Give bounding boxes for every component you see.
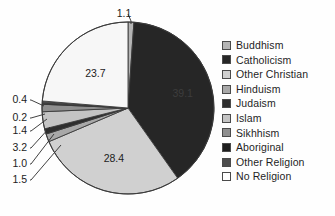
slice-value-label: 0.2 — [12, 111, 27, 123]
legend-swatch-icon — [222, 85, 231, 94]
legend-item[interactable]: No Religion — [222, 169, 308, 184]
chart-legend: BuddhismCatholicismOther ChristianHindui… — [222, 38, 308, 184]
legend-item[interactable]: Aboriginal — [222, 140, 308, 155]
legend-swatch-icon — [222, 128, 231, 137]
slice-value-label: 23.7 — [85, 67, 106, 79]
slice-value-label: 0.4 — [12, 93, 27, 105]
leader-line — [30, 134, 54, 164]
legend-swatch-icon — [222, 70, 231, 79]
legend-item[interactable]: Catholicism — [222, 53, 308, 68]
legend-item-label: Catholicism — [236, 55, 291, 66]
legend-item-label: Sikhhism — [236, 128, 279, 139]
legend-swatch-icon — [222, 158, 231, 167]
legend-item[interactable]: Sikhhism — [222, 126, 308, 141]
legend-swatch-icon — [222, 143, 231, 152]
legend-item[interactable]: Other Religion — [222, 155, 308, 170]
legend-item-label: Hinduism — [236, 84, 281, 95]
legend-swatch-icon — [222, 55, 231, 64]
legend-swatch-icon — [222, 114, 231, 123]
legend-item-label: No Religion — [236, 171, 291, 182]
legend-item[interactable]: Islam — [222, 111, 308, 126]
legend-item[interactable]: Buddhism — [222, 38, 308, 53]
slice-value-label: 1.4 — [12, 124, 27, 136]
slice-value-label: 3.2 — [12, 141, 27, 153]
legend-swatch-icon — [222, 41, 231, 50]
pie-chart-figure: 39.128.423.71.11.51.03.21.40.20.4 Buddhi… — [0, 0, 335, 216]
slice-value-label: 28.4 — [104, 152, 125, 164]
legend-swatch-icon — [222, 99, 231, 108]
legend-item-label: Other Religion — [236, 157, 305, 168]
legend-item-label: Aboriginal — [236, 142, 284, 153]
legend-swatch-icon — [222, 172, 231, 181]
legend-item[interactable]: Hinduism — [222, 82, 308, 97]
slice-value-label: 1.0 — [12, 157, 27, 169]
legend-item-label: Islam — [236, 113, 262, 124]
slice-value-label: 1.5 — [12, 173, 27, 185]
slice-value-label: 39.1 — [172, 87, 193, 99]
leader-line — [30, 145, 61, 180]
legend-item[interactable]: Judaism — [222, 96, 308, 111]
legend-item-label: Other Christian — [236, 69, 308, 80]
pie-slice[interactable] — [42, 22, 128, 108]
legend-item[interactable]: Other Christian — [222, 67, 308, 82]
legend-item-label: Buddhism — [236, 40, 284, 51]
legend-item-label: Judaism — [236, 98, 276, 109]
